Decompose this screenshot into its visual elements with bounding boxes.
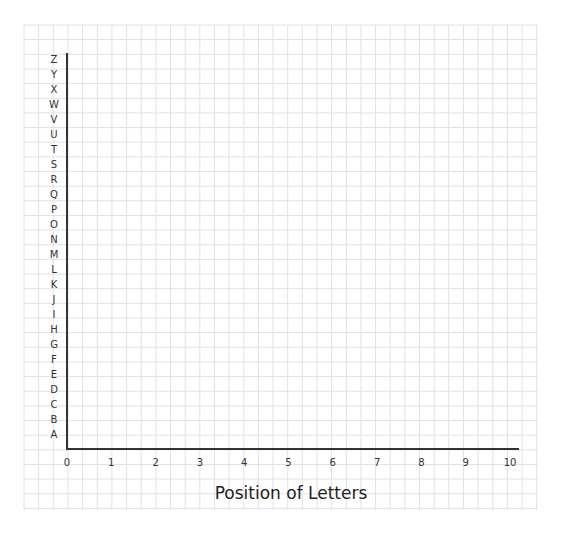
y-tick-label: Y [50, 69, 58, 80]
y-tick-label: O [50, 219, 58, 230]
y-tick-label: G [50, 339, 58, 350]
y-tick-label: Q [50, 189, 58, 200]
chart-container: ABCDEFGHIJKLMNOPQRSTUVWXYZ 012345678910 … [0, 0, 570, 536]
x-tick-label: 3 [197, 457, 203, 468]
y-tick-label: B [51, 414, 58, 425]
x-tick-label: 6 [330, 457, 336, 468]
y-tick-label: D [50, 384, 58, 395]
y-tick-label: X [51, 84, 58, 95]
y-tick-label: S [51, 159, 57, 170]
x-tick-label: 4 [241, 457, 247, 468]
y-tick-label: A [51, 429, 58, 440]
x-tick-label: 10 [504, 457, 517, 468]
y-tick-label: L [51, 264, 57, 275]
x-tick-label: 2 [152, 457, 158, 468]
y-tick-label: H [50, 324, 58, 335]
x-tick-label: 7 [374, 457, 380, 468]
y-tick-label: Z [51, 54, 58, 65]
x-tick-label: 9 [463, 457, 469, 468]
y-tick-label: C [51, 399, 58, 410]
y-tick-label: K [51, 279, 58, 290]
background-grid [24, 25, 538, 510]
x-tick-label: 1 [108, 457, 114, 468]
y-tick-label: P [51, 204, 57, 215]
y-tick-label: I [53, 309, 56, 320]
x-tick-label: 5 [285, 457, 291, 468]
y-tick-label: T [50, 144, 58, 155]
y-tick-label: U [50, 129, 57, 140]
y-tick-label: E [51, 369, 57, 380]
x-tick-label: 0 [64, 457, 70, 468]
y-tick-label: W [49, 99, 59, 110]
x-axis-title: Position of Letters [215, 483, 368, 503]
y-axis-tick-labels: ABCDEFGHIJKLMNOPQRSTUVWXYZ [49, 54, 59, 440]
y-tick-label: V [51, 114, 58, 125]
y-tick-label: F [51, 354, 57, 365]
x-tick-label: 8 [418, 457, 424, 468]
chart-svg: ABCDEFGHIJKLMNOPQRSTUVWXYZ 012345678910 … [0, 0, 570, 536]
y-tick-label: M [50, 249, 59, 260]
y-tick-label: J [52, 294, 56, 305]
y-tick-label: R [51, 174, 58, 185]
y-tick-label: N [50, 234, 57, 245]
